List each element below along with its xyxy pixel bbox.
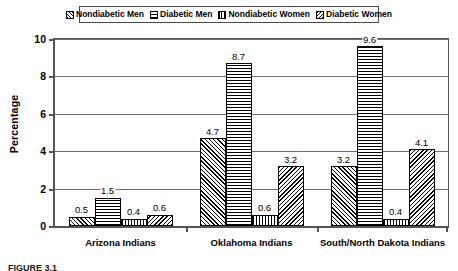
bar-value-label: 4.1 bbox=[414, 138, 429, 148]
y-axis-title: Percentage bbox=[8, 79, 20, 169]
legend-item-label: Nondiabetic Men bbox=[76, 10, 144, 19]
figure-caption: FIGURE 3.1 bbox=[8, 263, 57, 271]
bar-slot: 1.5 bbox=[95, 39, 121, 226]
bar-value-label: 0.4 bbox=[388, 207, 403, 217]
bar-value-label: 0.4 bbox=[126, 207, 141, 217]
bar-slot: 3.2 bbox=[331, 39, 357, 226]
chart-legend: Nondiabetic MenDiabetic MenNondiabetic W… bbox=[79, 6, 379, 23]
x-axis-category-label: Arizona Indians bbox=[85, 237, 156, 248]
figure-container: Nondiabetic MenDiabetic MenNondiabetic W… bbox=[0, 0, 458, 271]
bar-value-label: 4.7 bbox=[205, 127, 220, 137]
bar-slot: 0.4 bbox=[383, 39, 409, 226]
x-axis-tick bbox=[317, 226, 319, 232]
bar-group: 4.78.70.63.2Oklahoma Indians bbox=[186, 39, 317, 226]
bar-slot: 0.4 bbox=[121, 39, 147, 226]
bar[interactable] bbox=[69, 217, 95, 226]
legend-item-label: Diabetic Men bbox=[160, 10, 212, 19]
y-axis-tick-label: 4 bbox=[40, 145, 46, 157]
x-axis-tick bbox=[446, 226, 448, 232]
bar-slot: 4.7 bbox=[200, 39, 226, 226]
x-axis-tick bbox=[186, 226, 188, 232]
bar-value-label: 0.5 bbox=[74, 205, 89, 215]
y-axis-tick-label: 10 bbox=[34, 33, 46, 45]
bar-slot: 4.1 bbox=[409, 39, 435, 226]
forward-diagonal-swatch bbox=[66, 11, 74, 19]
bar-slot: 0.5 bbox=[69, 39, 95, 226]
bar-slot: 8.7 bbox=[226, 39, 252, 226]
bar-group: 3.29.60.44.1South/North Dakota Indians bbox=[317, 39, 448, 226]
y-axis-tick bbox=[49, 226, 55, 228]
bar-slot: 0.6 bbox=[252, 39, 278, 226]
y-axis-tick-label: 2 bbox=[40, 183, 46, 195]
bar-value-label: 0.6 bbox=[257, 203, 272, 213]
bar-groups: 0.51.50.40.6Arizona Indians4.78.70.63.2O… bbox=[55, 39, 448, 226]
horizontal-lines-swatch bbox=[150, 11, 158, 19]
legend-item: Nondiabetic Women bbox=[218, 10, 310, 19]
plot-area: 0246810 0.51.50.40.6Arizona Indians4.78.… bbox=[53, 38, 449, 228]
bar[interactable] bbox=[357, 46, 383, 226]
y-axis-tick-label: 8 bbox=[40, 70, 46, 82]
bar-slot: 0.6 bbox=[147, 39, 173, 226]
bar-value-label: 3.2 bbox=[336, 155, 351, 165]
bar[interactable] bbox=[200, 138, 226, 226]
bar-value-label: 1.5 bbox=[100, 186, 115, 196]
legend-item-label: Diabetic Women bbox=[326, 10, 392, 19]
bar[interactable] bbox=[278, 166, 304, 226]
bar-value-label: 0.6 bbox=[152, 203, 167, 213]
bar-group: 0.51.50.40.6Arizona Indians bbox=[55, 39, 186, 226]
bar-slot: 9.6 bbox=[357, 39, 383, 226]
bar[interactable] bbox=[252, 215, 278, 226]
bar[interactable] bbox=[95, 198, 121, 226]
legend-item: Nondiabetic Men bbox=[66, 10, 144, 19]
bar[interactable] bbox=[409, 149, 435, 226]
bar[interactable] bbox=[331, 166, 357, 226]
y-axis-tick-label: 0 bbox=[40, 220, 46, 232]
bar[interactable] bbox=[383, 219, 409, 226]
x-axis-category-label: South/North Dakota Indians bbox=[320, 237, 445, 248]
backward-diagonal-swatch bbox=[316, 11, 324, 19]
bar-slot: 3.2 bbox=[278, 39, 304, 226]
bar-value-label: 3.2 bbox=[283, 155, 298, 165]
x-axis-category-label: Oklahoma Indians bbox=[211, 237, 293, 248]
bar[interactable] bbox=[226, 63, 252, 226]
vertical-lines-swatch bbox=[218, 11, 226, 19]
bar[interactable] bbox=[147, 215, 173, 226]
bar-value-label: 8.7 bbox=[231, 52, 246, 62]
bar[interactable] bbox=[121, 219, 147, 226]
legend-item: Diabetic Women bbox=[316, 10, 392, 19]
y-axis-tick-label: 6 bbox=[40, 108, 46, 120]
legend-item-label: Nondiabetic Women bbox=[228, 10, 310, 19]
legend-item: Diabetic Men bbox=[150, 10, 212, 19]
bar-value-label: 9.6 bbox=[362, 35, 377, 45]
